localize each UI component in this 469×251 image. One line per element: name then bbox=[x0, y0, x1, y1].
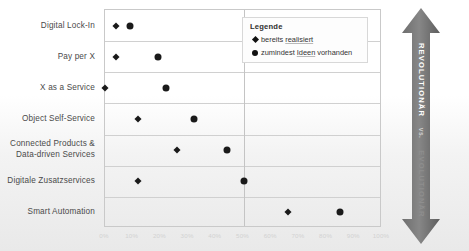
x-axis-tick-label: 30% bbox=[181, 232, 194, 239]
legend-title: Legende bbox=[250, 22, 361, 31]
y-axis-label: Connected Products & Data-driven Service… bbox=[0, 138, 95, 160]
y-axis-label: Object Self-Service bbox=[0, 113, 95, 124]
y-axis-label: Digitale Zusatzservices bbox=[0, 175, 95, 186]
x-axis-tick-label: 20% bbox=[153, 232, 166, 239]
x-axis-tick-label: 10% bbox=[125, 232, 138, 239]
legend-item: bereits realisiert bbox=[249, 35, 361, 44]
data-point bbox=[223, 147, 230, 154]
y-axis-label: X as a Service bbox=[0, 81, 95, 92]
legend-item-label: zumindest Ideen vorhanden bbox=[261, 48, 352, 57]
arrow-label-revolutionaer: REVOLUTIONÄR bbox=[417, 43, 426, 117]
data-point bbox=[113, 53, 120, 60]
x-axis-tick-label: 70% bbox=[291, 232, 304, 239]
x-axis-tick-label: 90% bbox=[347, 232, 360, 239]
data-point bbox=[173, 147, 180, 154]
gridline-horizontal bbox=[105, 166, 380, 167]
gridline-horizontal bbox=[105, 72, 380, 73]
data-point bbox=[190, 116, 197, 123]
legend-items: bereits realisiertzumindest Ideen vorhan… bbox=[249, 35, 361, 57]
y-axis-label: Smart Automation bbox=[0, 206, 95, 217]
data-point bbox=[126, 22, 133, 29]
data-point bbox=[240, 178, 247, 185]
data-point bbox=[337, 209, 344, 216]
y-axis-label: Digital Lock-In bbox=[0, 19, 95, 30]
revolution-evolution-arrow: REVOLUTIONÄR vs. EVOLUTIONÄR bbox=[401, 8, 441, 244]
legend-item: zumindest Ideen vorhanden bbox=[249, 48, 361, 57]
arrow-label-vs: vs. bbox=[418, 128, 425, 138]
x-axis-tick-label: 40% bbox=[208, 232, 221, 239]
chart-legend: Legende bereits realisiertzumindest Idee… bbox=[242, 17, 368, 63]
gridline-horizontal bbox=[105, 197, 380, 198]
legend-diamond-icon bbox=[249, 37, 261, 42]
legend-item-label: bereits realisiert bbox=[261, 35, 313, 44]
x-axis-tick-label: 50% bbox=[236, 232, 249, 239]
arrow-label-evolutionaer: EVOLUTIONÄR bbox=[417, 150, 426, 217]
data-point bbox=[101, 84, 108, 91]
y-axis-label: Pay per X bbox=[0, 50, 95, 61]
gridline-horizontal bbox=[105, 103, 380, 104]
x-axis-tick-label: 100% bbox=[373, 232, 390, 239]
gridline-horizontal bbox=[105, 135, 380, 136]
x-axis-tick-label: 60% bbox=[264, 232, 277, 239]
x-axis-tick-label: 0% bbox=[99, 232, 108, 239]
data-point bbox=[284, 209, 291, 216]
x-axis-tick-label: 80% bbox=[319, 232, 332, 239]
data-point bbox=[162, 84, 169, 91]
legend-circle-icon bbox=[249, 50, 261, 56]
data-point bbox=[135, 115, 142, 122]
data-point bbox=[135, 178, 142, 185]
chart-canvas: Digital Lock-InPay per XX as a ServiceOb… bbox=[0, 0, 469, 251]
data-point bbox=[154, 53, 161, 60]
data-point bbox=[113, 22, 120, 29]
